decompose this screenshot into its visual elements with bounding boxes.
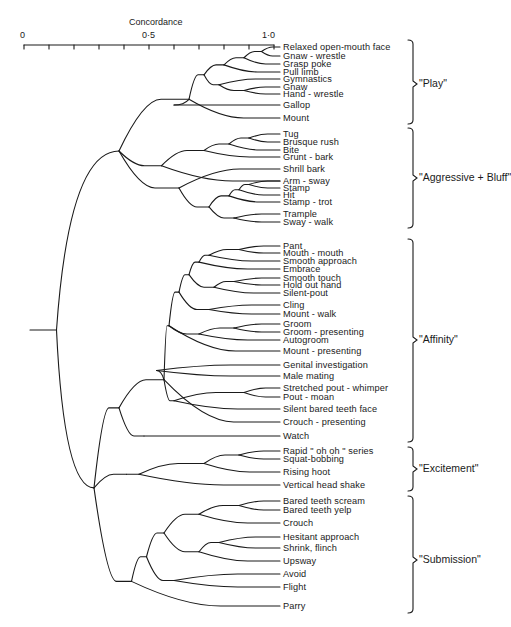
group-label: "Submission" xyxy=(419,553,481,565)
leaf-label: Squat-bobbing xyxy=(283,454,344,464)
group-brackets xyxy=(408,40,417,613)
leaf-label: Mount - walk xyxy=(283,309,336,319)
leaf-label: Parry xyxy=(283,601,305,611)
leaf-label: Silent-pout xyxy=(283,288,328,298)
leaf-label: Gallop xyxy=(283,100,310,110)
concordance-axis xyxy=(24,45,274,49)
leaf-label: Crouch xyxy=(283,518,313,528)
group-label: "Excitement" xyxy=(419,462,478,474)
axis-title: Concordance xyxy=(129,17,183,27)
leaf-label: Sway - walk xyxy=(283,217,333,227)
leaf-label: Stamp - trot xyxy=(283,197,332,207)
leaf-label: Mount - presenting xyxy=(283,346,361,356)
tick-label-0-5: 0·5 xyxy=(142,30,155,40)
leaf-label: Upsway xyxy=(283,556,316,566)
leaf-label: Genital investigation xyxy=(283,360,368,370)
leaf-label: Vertical head shake xyxy=(283,480,365,490)
leaf-label: Pout - moan xyxy=(283,392,334,402)
group-label: "Play" xyxy=(419,77,447,89)
group-label: "Affinity" xyxy=(419,333,458,345)
leaf-label: Rising hoot xyxy=(283,467,330,477)
leaf-label: Crouch - presenting xyxy=(283,417,366,427)
tick-label-1-0: 1·0 xyxy=(262,30,275,40)
leaf-label: Avoid xyxy=(283,569,306,579)
tick-label-0: 0 xyxy=(20,30,25,40)
leaf-label: Shrink, flinch xyxy=(283,543,337,553)
leaf-label: Shrill bark xyxy=(283,164,325,174)
leaf-label: Hesitant approach xyxy=(283,532,359,542)
leaf-label: Mount xyxy=(283,113,309,123)
leaf-label: Hand - wrestle xyxy=(283,89,344,99)
tree-branches xyxy=(30,47,280,606)
leaf-label: Male mating xyxy=(283,371,334,381)
leaf-label: Grunt - bark xyxy=(283,152,333,162)
group-label: "Aggressive + Bluff" xyxy=(419,171,511,183)
leaf-label: Autogroom xyxy=(283,335,329,345)
leaf-label: Watch xyxy=(283,431,309,441)
leaf-label: Silent bared teeth face xyxy=(283,404,377,414)
leaf-label: Flight xyxy=(283,582,306,592)
leaf-label: Bared teeth yelp xyxy=(283,505,352,515)
